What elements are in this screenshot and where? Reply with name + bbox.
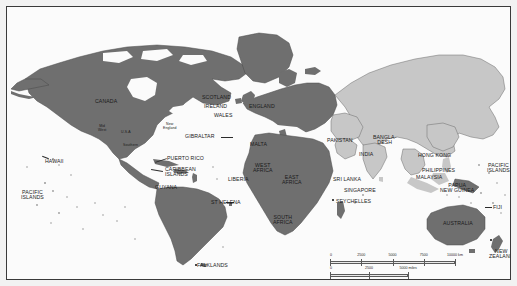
scale-tick-km-7500 <box>424 259 425 266</box>
island-st-helena <box>229 203 232 206</box>
scale-label-km-7500: 7500 <box>420 253 428 257</box>
scale-label-mi-2500: 2500 <box>365 266 373 270</box>
leader-st-helena <box>226 202 234 203</box>
scale-tick-mi-5000 <box>408 272 409 279</box>
scale-tick-km-5000 <box>393 259 394 266</box>
scale-tick-mi-2500 <box>369 272 370 279</box>
region-ireland-island <box>235 98 242 104</box>
scale-tick-km-10000 <box>455 259 456 266</box>
scale-tick-mi-0 <box>330 272 331 279</box>
map-canvas: .dk{fill:#6f6f6f;stroke:#4a4a4a;stroke-w… <box>7 7 510 279</box>
map-frame: .dk{fill:#6f6f6f;stroke:#4a4a4a;stroke-w… <box>6 6 511 280</box>
dot-new-zealand <box>490 239 492 241</box>
map-scale: 0 2500 5000 7500 10000 km 0 2500 5000 mi… <box>330 257 455 279</box>
scale-label-km-5000: 5000 <box>389 253 397 257</box>
scale-bar-miles: 0 2500 5000 miles <box>330 270 455 279</box>
island-tasmania <box>469 249 475 253</box>
scale-label-km-0: 0 <box>330 253 332 257</box>
scale-bar-km: 0 2500 5000 7500 10000 km <box>330 257 455 266</box>
leader-gibraltar <box>221 137 233 138</box>
world-map-figure: .dk{fill:#6f6f6f;stroke:#4a4a4a;stroke-w… <box>0 0 517 286</box>
scale-label-mi-0: 0 <box>330 266 332 270</box>
dot-seychelles <box>332 199 334 201</box>
scale-label-km-max: 10000 km <box>447 253 463 257</box>
scale-label-mi-max: 5000 miles <box>399 266 416 270</box>
leader-fiji <box>485 207 492 208</box>
scale-tick-km-2500 <box>361 259 362 266</box>
region-australia <box>427 205 485 245</box>
scale-label-km-2500: 2500 <box>357 253 365 257</box>
dot-falklands <box>195 264 197 266</box>
scale-tick-km-0 <box>330 259 331 266</box>
map-landmass-graphic: .dk{fill:#6f6f6f;stroke:#4a4a4a;stroke-w… <box>7 7 510 279</box>
